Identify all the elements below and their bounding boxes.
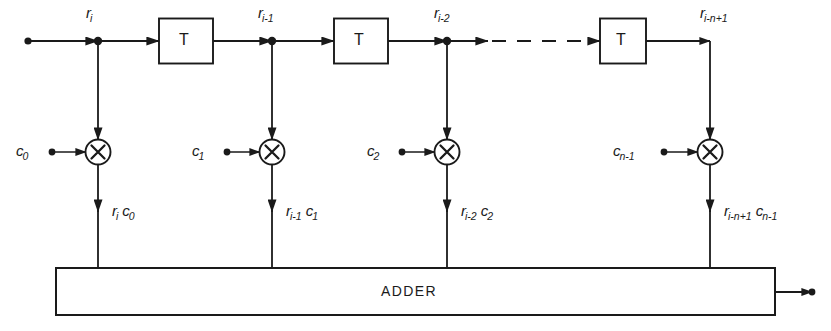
product-term1-sub: i bbox=[116, 210, 118, 222]
coefficient-label-cn1: cn-1 bbox=[613, 143, 636, 158]
product-term2-sub: n-1 bbox=[762, 210, 777, 222]
signal-sub: i-n+1 bbox=[704, 12, 728, 24]
product-label-0: ric0 bbox=[112, 203, 136, 218]
adder-label: ADDER bbox=[381, 284, 437, 298]
diagram-canvas bbox=[0, 0, 831, 331]
multiplier-2 bbox=[435, 140, 460, 165]
product-label-1: ri-1c1 bbox=[286, 203, 319, 218]
signal-sub: i-2 bbox=[438, 12, 450, 24]
product-term1-sub: i-2 bbox=[465, 210, 477, 222]
multiplier-1 bbox=[260, 140, 285, 165]
coef-sub: 2 bbox=[374, 150, 380, 162]
product-term2-sub: 1 bbox=[312, 210, 318, 222]
coef-sub: n-1 bbox=[620, 150, 635, 162]
product-term2-sub: 2 bbox=[487, 210, 493, 222]
signal-label-r-i-2: ri-2 bbox=[434, 5, 451, 20]
coef-sub: 1 bbox=[199, 150, 205, 162]
delay-block-1-label: T bbox=[179, 32, 189, 48]
output-terminal bbox=[809, 289, 816, 296]
signal-sub: i bbox=[90, 12, 92, 24]
signal-label-r-i-n-1: ri-n+1 bbox=[700, 5, 729, 20]
filter-block-diagram: T T T ri ri-1 ri-2 ri-n+1 c0 c1 c2 cn-1 … bbox=[0, 0, 831, 331]
multiplier-n bbox=[698, 140, 723, 165]
product-term1-sub: i-1 bbox=[290, 210, 302, 222]
signal-sub: i-1 bbox=[262, 12, 274, 24]
coefficient-label-c2: c2 bbox=[367, 143, 380, 158]
product-label-2: ri-2c2 bbox=[461, 203, 494, 218]
coefficient-label-c0: c0 bbox=[16, 143, 29, 158]
delay-block-2-label: T bbox=[354, 32, 364, 48]
coefficient-label-c1: c1 bbox=[192, 143, 205, 158]
product-term1-sub: i-n+1 bbox=[728, 210, 752, 222]
product-label-n: ri-n+1cn-1 bbox=[724, 203, 778, 218]
product-term2-sub: 0 bbox=[129, 210, 135, 222]
delay-block-n-label: T bbox=[616, 32, 626, 48]
signal-label-r-i-1: ri-1 bbox=[258, 5, 275, 20]
multiplier-0 bbox=[86, 140, 111, 165]
signal-label-r-i: ri bbox=[86, 5, 93, 20]
coef-sub: 0 bbox=[23, 150, 29, 162]
